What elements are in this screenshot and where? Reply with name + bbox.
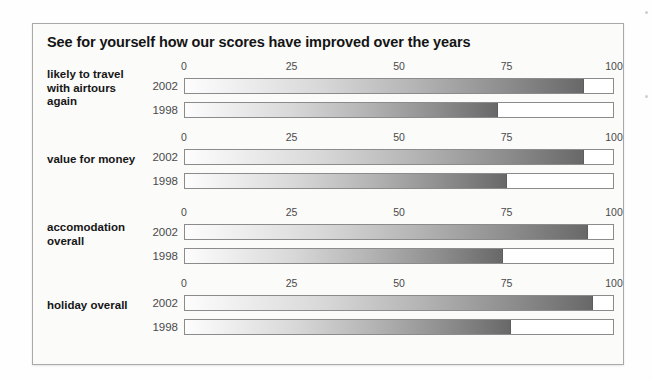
bar-fill [185,174,506,188]
bar-row: 2002 [33,224,623,241]
x-axis: 0255075100 [184,277,614,292]
bar-row: 1998 [33,173,623,190]
bar-track [184,319,614,335]
axis-tick-label: 100 [605,60,623,72]
axis-tick-label: 25 [286,277,298,289]
axis-tick-label: 75 [501,131,513,143]
bar-chart: likely to travelwith airtoursagain025507… [33,60,623,360]
bar-track [184,173,614,189]
bar-year-label: 1998 [138,175,178,187]
bar-fill-end [497,103,498,117]
bar-fill [185,150,583,164]
axis-tick-label: 75 [501,60,513,72]
axis-tick-label: 75 [501,206,513,218]
bar-year-label: 1998 [138,250,178,262]
axis-tick-label: 50 [393,60,405,72]
bar-fill-end [510,320,511,334]
bar-year-label: 2002 [138,151,178,163]
bar-fill-end [592,296,593,310]
bar-fill [185,249,502,263]
bar-year-label: 2002 [138,226,178,238]
bar-row: 1998 [33,319,623,336]
axis-tick-label: 100 [605,206,623,218]
bar-row: 1998 [33,248,623,265]
axis-tick-label: 25 [286,206,298,218]
bar-track [184,149,614,165]
axis-tick-label: 50 [393,206,405,218]
bar-fill [185,79,583,93]
bar-track [184,78,614,94]
scan-artifact-dot [645,95,648,98]
bar-year-label: 1998 [138,321,178,333]
bar-row: 2002 [33,295,623,312]
bar-fill [185,225,587,239]
axis-tick-label: 25 [286,131,298,143]
bar-group: accomodationoverall025507510020021998 [33,206,623,276]
x-axis: 0255075100 [184,131,614,146]
bar-track [184,102,614,118]
bar-fill [185,320,510,334]
x-axis: 0255075100 [184,206,614,221]
bar-fill [185,296,592,310]
bar-group: holiday overall025507510020021998 [33,277,623,347]
x-axis: 0255075100 [184,60,614,75]
bar-year-label: 1998 [138,104,178,116]
axis-tick-label: 75 [501,277,513,289]
axis-tick-label: 100 [605,131,623,143]
bar-row: 2002 [33,78,623,95]
bar-row: 1998 [33,102,623,119]
axis-tick-label: 100 [605,277,623,289]
bar-fill-end [506,174,507,188]
bar-track [184,248,614,264]
axis-tick-label: 50 [393,277,405,289]
chart-panel: See for yourself how our scores have imp… [32,23,624,365]
page-title: See for yourself how our scores have imp… [47,34,471,50]
bar-row: 2002 [33,149,623,166]
bar-fill [185,103,497,117]
bar-track [184,224,614,240]
axis-tick-label: 25 [286,60,298,72]
bar-group: likely to travelwith airtoursagain025507… [33,60,623,130]
bar-fill-end [587,225,588,239]
screenshot-stage: See for yourself how our scores have imp… [0,0,652,381]
bar-fill-end [583,150,584,164]
axis-tick-label: 0 [181,131,187,143]
axis-tick-label: 0 [181,60,187,72]
axis-tick-label: 50 [393,131,405,143]
scan-artifact-dot [645,11,648,14]
bar-group: value for money025507510020021998 [33,131,623,201]
bar-year-label: 2002 [138,297,178,309]
bar-track [184,295,614,311]
bar-year-label: 2002 [138,80,178,92]
axis-tick-label: 0 [181,206,187,218]
bar-fill-end [583,79,584,93]
axis-tick-label: 0 [181,277,187,289]
bar-fill-end [502,249,503,263]
